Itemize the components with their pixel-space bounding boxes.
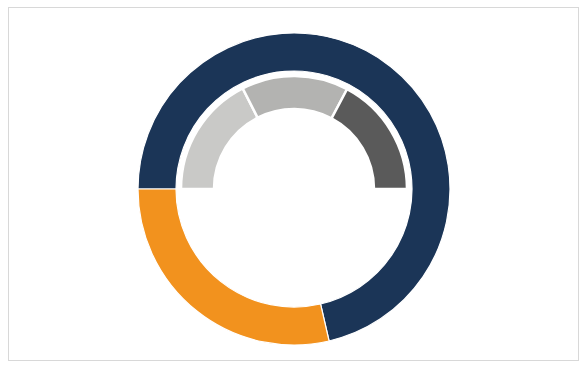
donut-chart — [0, 0, 588, 370]
donut-slice-inner-1[interactable] — [243, 76, 347, 118]
chart-canvas — [0, 0, 588, 370]
donut-slice-outer-1[interactable] — [138, 189, 329, 345]
donut-chart-svg — [0, 0, 588, 370]
